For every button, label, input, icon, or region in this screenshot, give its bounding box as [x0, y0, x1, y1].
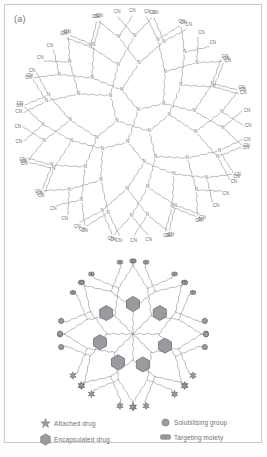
legend: Attached drug Encapsulated drug Solubili…	[8, 416, 259, 450]
legend-label-solubilising-group: Solubilising group	[174, 419, 227, 426]
svg-text:N: N	[126, 139, 129, 144]
svg-text:CN: CN	[233, 174, 240, 179]
circle-marker	[202, 318, 207, 323]
capsule-marker-icon	[156, 433, 174, 441]
svg-text:CN: CN	[180, 20, 187, 25]
svg-text:N: N	[154, 154, 157, 159]
svg-text:CN: CN	[17, 101, 24, 106]
svg-text:N: N	[186, 155, 189, 160]
legend-label-encapsulated-drug: Encapsulated drug	[54, 436, 110, 443]
svg-text:CN: CN	[29, 68, 36, 73]
hexagon-marker	[111, 355, 124, 370]
svg-text:CN: CN	[14, 124, 21, 129]
functionalised-dendrimer-diagram	[8, 252, 259, 417]
svg-text:N: N	[148, 128, 151, 133]
svg-text:N: N	[179, 82, 182, 87]
svg-text:CN: CN	[47, 43, 54, 48]
svg-text:N: N	[216, 154, 219, 159]
circle-marker	[57, 331, 62, 336]
svg-text:N: N	[67, 187, 70, 192]
svg-text:N: N	[194, 129, 197, 134]
svg-text:CN: CN	[165, 233, 172, 238]
svg-text:N: N	[193, 108, 196, 113]
svg-text:N: N	[195, 60, 198, 65]
svg-text:CN: CN	[145, 237, 152, 242]
svg-text:N: N	[221, 125, 224, 130]
svg-text:N: N	[90, 75, 93, 80]
svg-text:CN: CN	[222, 191, 229, 196]
hexagon-marker	[153, 306, 166, 321]
svg-text:N: N	[218, 148, 221, 153]
svg-text:N: N	[146, 184, 149, 189]
star-marker	[117, 402, 123, 409]
svg-text:N: N	[133, 33, 136, 38]
svg-text:CN: CN	[195, 218, 202, 223]
svg-text:N: N	[168, 112, 171, 117]
circle-marker	[59, 344, 64, 349]
svg-text:CN: CN	[245, 123, 252, 128]
hexagon-marker-icon	[36, 433, 54, 446]
svg-text:CN: CN	[244, 137, 251, 142]
svg-text:N: N	[47, 92, 50, 97]
hexagon-marker	[136, 357, 149, 372]
svg-text:CN: CN	[79, 227, 86, 232]
svg-text:N: N	[171, 204, 174, 209]
dendrimer-skeleton-diagram: NNNNNNNNNNNNNNNNNNNNNNNNNNNNNNNNNNNNNNNN…	[8, 6, 259, 248]
svg-text:N: N	[80, 197, 83, 202]
svg-text:N: N	[99, 177, 102, 182]
svg-text:CN: CN	[213, 203, 220, 208]
svg-text:N: N	[77, 91, 80, 96]
svg-text:N: N	[205, 175, 208, 180]
circle-marker-icon	[156, 418, 174, 427]
svg-text:N: N	[50, 162, 53, 167]
svg-text:N: N	[83, 164, 86, 169]
svg-text:N: N	[220, 109, 223, 114]
star-marker	[70, 372, 76, 379]
svg-text:CN: CN	[107, 236, 114, 241]
svg-text:N: N	[107, 210, 110, 215]
svg-text:CN: CN	[20, 159, 27, 164]
hexagon-marker	[127, 297, 140, 312]
svg-text:CN: CN	[16, 139, 23, 144]
svg-text:CN: CN	[198, 30, 205, 35]
panel-a: (a) NNNNNNNNNNNNNNNNNNNNNNNNNNNNNNNNNNNN…	[0, 0, 267, 248]
svg-text:N: N	[42, 138, 45, 143]
svg-text:N: N	[58, 72, 61, 77]
svg-text:N: N	[163, 69, 166, 74]
circle-marker	[202, 344, 207, 349]
svg-text:CN: CN	[150, 10, 157, 15]
legend-label-targeting-moiety: Targeting moiety	[174, 434, 223, 441]
svg-text:N: N	[143, 159, 146, 164]
star-marker-icon	[36, 418, 54, 429]
svg-text:CN: CN	[15, 109, 22, 114]
svg-text:N: N	[183, 49, 186, 54]
svg-text:N: N	[172, 171, 175, 176]
hexagon-marker	[100, 306, 113, 321]
svg-text:CN: CN	[60, 31, 67, 36]
svg-text:N: N	[162, 39, 165, 44]
svg-text:N: N	[120, 87, 123, 92]
svg-text:CN: CN	[224, 58, 231, 63]
svg-text:CN: CN	[115, 238, 122, 243]
svg-text:CN: CN	[37, 55, 44, 60]
svg-text:N: N	[117, 34, 120, 39]
legend-label-attached-drug: Attached drug	[54, 420, 96, 427]
svg-text:N: N	[109, 93, 112, 98]
svg-text:N: N	[92, 42, 95, 47]
svg-text:N: N	[174, 203, 177, 208]
svg-text:CN: CN	[50, 206, 57, 211]
svg-text:N: N	[41, 122, 44, 127]
svg-text:N: N	[101, 146, 104, 151]
svg-text:N: N	[156, 37, 159, 42]
svg-text:CN: CN	[114, 9, 121, 14]
circle-marker	[59, 318, 64, 323]
svg-text:N: N	[137, 107, 140, 112]
svg-text:N: N	[101, 208, 104, 213]
circle-marker	[203, 332, 208, 337]
svg-text:N: N	[70, 138, 73, 143]
svg-text:N: N	[117, 62, 120, 67]
svg-text:N: N	[195, 187, 198, 192]
svg-text:N: N	[89, 44, 92, 49]
svg-text:N: N	[212, 84, 215, 89]
svg-text:N: N	[95, 135, 98, 140]
